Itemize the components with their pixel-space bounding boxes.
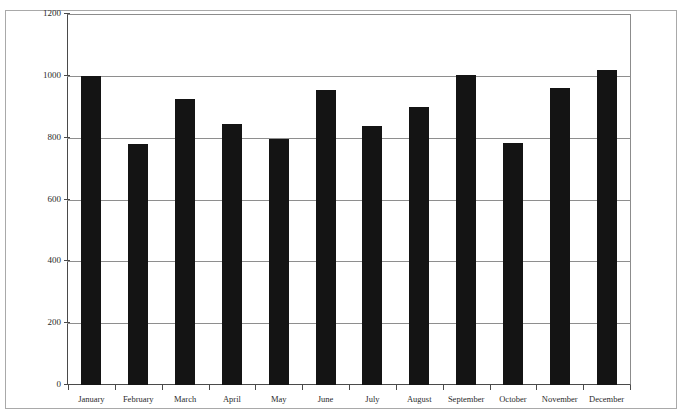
- x-tick-july: [349, 385, 350, 390]
- y-tick-label: 400: [48, 254, 62, 267]
- bar-april[interactable]: [222, 124, 242, 385]
- bar-chart: 020040060080010001200 JanuaryFebruaryMar…: [6, 11, 678, 410]
- bar-february[interactable]: [128, 144, 148, 385]
- bar-december[interactable]: [597, 70, 617, 385]
- bar-august[interactable]: [409, 107, 429, 385]
- x-tick-august: [396, 385, 397, 390]
- x-tick-june: [302, 385, 303, 390]
- x-tick-january: [68, 385, 69, 390]
- figure-frame: 020040060080010001200 JanuaryFebruaryMar…: [5, 10, 677, 409]
- x-axis-label-october: October: [490, 392, 537, 406]
- x-axis-label-march: March: [162, 392, 209, 406]
- x-axis-label-february: February: [115, 392, 162, 406]
- x-axis-label-april: April: [209, 392, 256, 406]
- x-axis-label-july: July: [349, 392, 396, 406]
- y-tick-label: 600: [48, 193, 62, 206]
- bar-january[interactable]: [81, 76, 101, 385]
- x-tick-february: [115, 385, 116, 390]
- y-tick-label: 1200: [43, 7, 61, 20]
- x-tick-march: [162, 385, 163, 390]
- x-axis-label-june: June: [302, 392, 349, 406]
- bar-november[interactable]: [550, 88, 570, 385]
- scanned-page-top-text-sliver: [0, 0, 684, 9]
- bar-march[interactable]: [175, 99, 195, 385]
- bar-july[interactable]: [362, 126, 382, 385]
- bar-may[interactable]: [269, 139, 289, 385]
- x-tick-april: [209, 385, 210, 390]
- x-axis-label-january: January: [68, 392, 115, 406]
- x-axis-labels: JanuaryFebruaryMarchAprilMayJuneJulyAugu…: [68, 392, 630, 408]
- x-axis-label-may: May: [255, 392, 302, 406]
- y-axis: 020040060080010001200: [6, 14, 70, 385]
- y-tick-label: 0: [57, 378, 62, 391]
- x-axis-label-august: August: [396, 392, 443, 406]
- x-axis-ticks: [68, 385, 630, 391]
- x-tick-end: [630, 385, 631, 390]
- x-tick-may: [255, 385, 256, 390]
- bar-october[interactable]: [503, 143, 523, 385]
- bars-container: [68, 14, 630, 385]
- y-tick-label: 800: [48, 131, 62, 144]
- x-axis-label-november: November: [536, 392, 583, 406]
- x-tick-november: [536, 385, 537, 390]
- x-axis-label-december: December: [583, 392, 630, 406]
- y-tick-label: 1000: [43, 69, 61, 82]
- bar-june[interactable]: [316, 90, 336, 385]
- x-axis-label-september: September: [443, 392, 490, 406]
- x-tick-october: [490, 385, 491, 390]
- y-tick-label: 200: [48, 316, 62, 329]
- x-tick-september: [443, 385, 444, 390]
- x-tick-december: [583, 385, 584, 390]
- bar-september[interactable]: [456, 75, 476, 385]
